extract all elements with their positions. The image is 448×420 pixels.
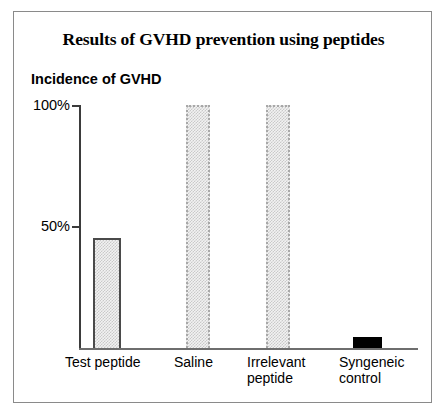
bar-irrelevant-peptide — [266, 105, 290, 348]
x-axis-line — [79, 348, 418, 350]
y-tick-label-50: 50% — [24, 218, 70, 234]
figure-frame: Results of GVHD prevention using peptide… — [13, 11, 432, 403]
plot-area: 100% 50% Test peptide Saline Irrelevant … — [14, 12, 433, 404]
category-label-saline: Saline — [174, 354, 244, 370]
y-tick-mark-100 — [72, 105, 80, 107]
y-tick-mark-50 — [72, 226, 80, 228]
bar-test-peptide — [93, 238, 121, 348]
y-tick-label-100: 100% — [24, 97, 70, 113]
category-label-irrelevant-peptide: Irrelevant peptide — [247, 354, 337, 386]
category-label-test-peptide: Test peptide — [65, 354, 165, 370]
bar-saline — [186, 105, 210, 348]
bar-syngeneic-control — [353, 337, 382, 348]
category-label-syngeneic-control: Syngeneic control — [339, 354, 429, 386]
